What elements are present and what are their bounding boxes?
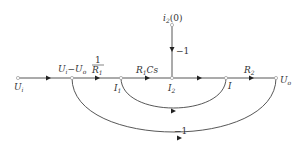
arrow-icon: [171, 109, 176, 114]
gain-minus-1-i20: −1: [176, 46, 189, 56]
node-I: [224, 76, 227, 79]
node-i20: [170, 23, 173, 26]
arrow-icon: [95, 76, 100, 81]
label-I: I: [227, 81, 232, 91]
signal-flow-graph: Ui Ui−Uo I1 I2 I Uo i2(0) 1 R1 R1Cs −1 R…: [0, 0, 301, 154]
node-Ui: [16, 76, 19, 79]
node-Uo: [274, 76, 277, 79]
gain-R2: R2: [243, 65, 255, 76]
gain-R1Cs: R1Cs: [135, 65, 158, 76]
arrow-icon: [170, 47, 175, 52]
gain-1-over-R1: 1 R1: [91, 55, 104, 76]
gain-minus-1-feedback: −1: [174, 126, 187, 136]
label-Ui: Ui: [14, 82, 24, 93]
arrow-icon: [46, 76, 51, 81]
label-I2: I2: [167, 83, 176, 94]
arrow-icon: [197, 76, 202, 81]
label-Uo: Uo: [280, 75, 292, 86]
node-I2: [170, 76, 173, 79]
label-UiUo: Ui−Uo: [58, 64, 87, 75]
arrow-icon: [145, 76, 150, 81]
node-I1: [119, 76, 122, 79]
svg-text:1: 1: [95, 55, 101, 65]
arrow-icon: [249, 76, 254, 81]
label-I1: I1: [113, 83, 121, 94]
node-UiUo: [70, 76, 73, 79]
arrow-icon: [177, 136, 182, 141]
svg-text:R1: R1: [91, 65, 103, 76]
label-i20: i2(0): [163, 13, 182, 24]
